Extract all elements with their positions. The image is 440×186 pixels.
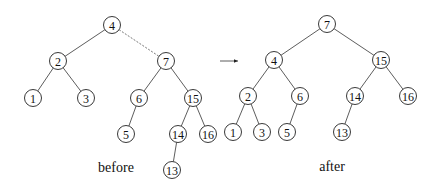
node-key: 6 (297, 90, 303, 104)
tree-node: 7 (319, 16, 336, 33)
tree-node: 5 (279, 124, 296, 141)
node-key: 15 (375, 54, 387, 68)
node-key: 14 (349, 90, 361, 104)
tree-node: 15 (373, 52, 390, 69)
node-key: 7 (324, 18, 330, 32)
tree-node: 14 (347, 88, 364, 105)
edge-14-13 (173, 142, 176, 161)
edge-14-13 (345, 104, 352, 124)
edge-7-15 (334, 29, 374, 56)
edge-4-6 (279, 67, 295, 89)
edge-4-2 (253, 67, 269, 89)
node-key: 16 (402, 90, 414, 104)
node-key: 13 (166, 164, 178, 178)
edge-7-4 (281, 29, 320, 55)
tree-node: 15 (185, 90, 202, 107)
tree-node: 2 (240, 88, 257, 105)
node-key: 2 (55, 55, 61, 69)
node-key: 6 (136, 92, 142, 106)
tree-node: 1 (25, 90, 42, 107)
tree-node: 16 (400, 88, 417, 105)
tree-node: 4 (104, 17, 121, 34)
tree-node: 2 (50, 53, 67, 70)
tree-node: 13 (164, 162, 181, 179)
edge-6-5 (129, 106, 136, 126)
edge-15-14 (360, 67, 376, 89)
tree-node: 14 (170, 126, 187, 143)
after-edges (236, 29, 403, 124)
tree-rotation-diagram: 427136155141613before 741526141613513aft… (0, 0, 440, 186)
node-key: 4 (109, 19, 115, 33)
tree-node: 6 (131, 90, 148, 107)
tree-node: 3 (254, 124, 271, 141)
node-key: 2 (245, 90, 251, 104)
tree-node: 7 (158, 53, 175, 70)
node-key: 7 (163, 55, 169, 69)
edge-6-5 (290, 104, 297, 124)
node-key: 15 (187, 92, 199, 106)
tree-node: 6 (292, 88, 309, 105)
node-key: 1 (30, 92, 36, 106)
node-key: 1 (230, 126, 236, 140)
node-key: 5 (123, 128, 129, 142)
edge-2-3 (63, 68, 81, 91)
caption-before: before (98, 160, 134, 175)
edge-4-7 (119, 30, 159, 57)
tree-node: 16 (200, 126, 217, 143)
tree-node: 13 (334, 124, 351, 141)
caption-after: after (319, 159, 345, 174)
edge-15-16 (386, 67, 403, 89)
edge-2-1 (236, 104, 244, 124)
edge-15-16 (196, 106, 204, 126)
edge-2-1 (38, 68, 53, 91)
node-key: 16 (202, 128, 214, 142)
tree-before: 427136155141613before (25, 17, 217, 179)
edge-4-2 (65, 30, 105, 57)
node-key: 3 (259, 126, 265, 140)
edge-7-6 (144, 68, 161, 91)
edge-7-15 (171, 68, 188, 91)
tree-after: 741526141613513after (225, 16, 417, 175)
node-key: 14 (172, 128, 184, 142)
edge-15-14 (181, 106, 189, 126)
edge-2-3 (251, 104, 259, 124)
node-key: 4 (271, 54, 277, 68)
node-key: 13 (336, 126, 348, 140)
tree-node: 1 (225, 124, 242, 141)
node-key: 5 (284, 126, 290, 140)
tree-node: 3 (78, 90, 95, 107)
tree-node: 4 (266, 52, 283, 69)
node-key: 3 (83, 92, 89, 106)
tree-node: 5 (118, 126, 135, 143)
